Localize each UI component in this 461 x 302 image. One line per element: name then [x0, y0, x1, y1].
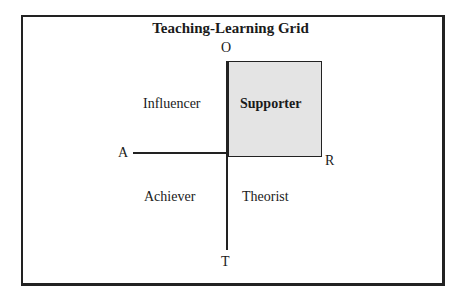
horizontal-axis-line	[133, 152, 229, 154]
quadrant-label-achiever: Achiever	[144, 189, 195, 205]
vertical-axis-line	[226, 61, 228, 250]
axis-label-left: A	[118, 145, 128, 161]
quadrant-label-supporter: Supporter	[240, 96, 301, 112]
axis-label-top: O	[221, 40, 231, 56]
axis-label-right: R	[325, 153, 334, 169]
axis-label-bottom: T	[221, 254, 230, 270]
diagram-title: Teaching-Learning Grid	[0, 20, 461, 37]
quadrant-label-influencer: Influencer	[143, 96, 201, 112]
quadrant-label-theorist: Theorist	[242, 189, 289, 205]
